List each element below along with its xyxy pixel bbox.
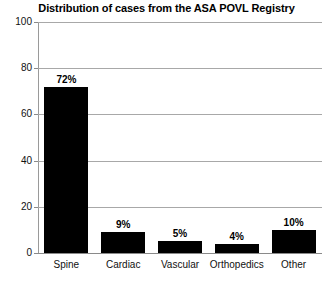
bar-chart: Distribution of cases from the ASA POVL … [0,0,333,281]
bar [272,230,316,253]
bar-value-label: 4% [197,231,277,242]
y-axis-tick [34,161,38,162]
y-axis-tick-label: 0 [2,248,32,258]
y-axis-tick [34,22,38,23]
gridline [38,22,322,23]
x-axis-category-label: Other [249,259,333,270]
y-axis-labels: 020406080100 [0,0,32,281]
bar-value-label: 72% [26,74,106,85]
chart-title: Distribution of cases from the ASA POVL … [0,2,333,15]
y-axis-tick-label: 80 [2,63,32,73]
bar-value-label: 10% [254,217,333,228]
axis-baseline [38,253,322,254]
y-axis-tick-label: 60 [2,109,32,119]
bar [44,87,88,253]
y-axis-tick [34,114,38,115]
y-axis-tick [34,207,38,208]
y-axis-tick-label: 100 [2,17,32,27]
bar [215,244,259,253]
gridline [38,68,322,69]
y-axis-tick [34,68,38,69]
y-axis-tick-label: 20 [2,202,32,212]
y-axis-tick-label: 40 [2,156,32,166]
bar [101,232,145,253]
bar [158,241,202,253]
y-axis-tick [34,253,38,254]
